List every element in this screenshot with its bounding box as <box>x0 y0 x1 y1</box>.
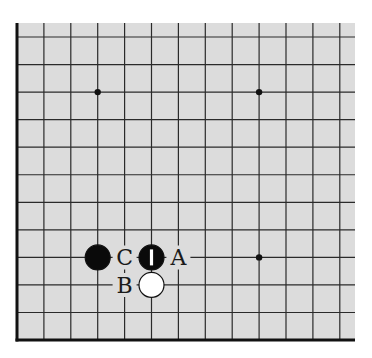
star-point <box>256 254 262 260</box>
star-point <box>95 89 101 95</box>
point-label-b: B <box>117 273 133 298</box>
move-number-marker <box>150 249 153 265</box>
black-stone <box>139 245 164 270</box>
white-stone <box>139 272 164 297</box>
point-label-a: A <box>169 245 187 270</box>
star-point <box>256 89 262 95</box>
black-stone <box>85 245 110 270</box>
point-label-c: C <box>116 245 133 270</box>
go-board: CAB <box>0 0 372 358</box>
board-background <box>17 23 355 340</box>
